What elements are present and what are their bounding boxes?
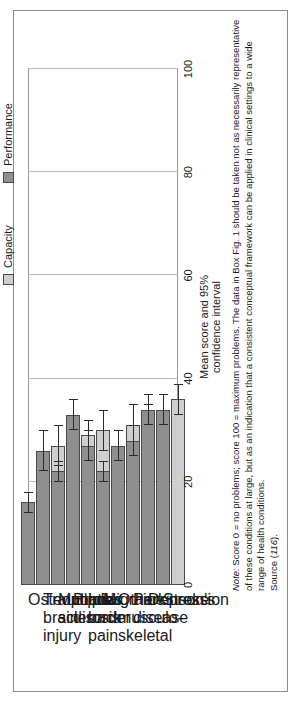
axis-tick-label-0: 0 xyxy=(182,572,194,598)
error-bar-cap-lower xyxy=(54,481,63,482)
bar-performance xyxy=(81,446,95,585)
error-bar-cap-lower xyxy=(69,429,78,430)
error-bar-cap-upper xyxy=(54,461,63,462)
category-label-line: skeletal xyxy=(118,627,133,645)
error-bar-cap-lower xyxy=(39,470,48,471)
error-bar-cap-upper xyxy=(69,399,78,400)
bar-performance xyxy=(156,410,170,585)
error-bar xyxy=(42,430,45,471)
bar-row xyxy=(141,69,155,585)
bar-row xyxy=(66,69,80,585)
value-axis-title: Mean score and 95% confidence interval xyxy=(198,227,222,427)
source-suffix: ). xyxy=(267,534,278,540)
category-label-line: musculo- xyxy=(118,609,133,627)
note-prefix: Note: xyxy=(230,568,241,591)
bar-row xyxy=(96,69,110,585)
error-bar-cap-lower xyxy=(129,455,138,456)
error-bar xyxy=(72,399,75,430)
error-bar-cap-upper xyxy=(144,394,153,395)
error-bar-cap-upper xyxy=(99,461,108,462)
category-label-wrap: Othermusculo-skeletal xyxy=(118,590,133,591)
axis-tick-label-80: 80 xyxy=(182,159,194,185)
axis-tick-label-20: 20 xyxy=(182,469,194,495)
error-bar-line xyxy=(163,394,164,425)
figure-note: Note: Score 0 = no problems; score 100 =… xyxy=(230,31,280,591)
error-bar-cap-upper xyxy=(129,425,138,426)
bar-row xyxy=(51,69,65,585)
legend-label-performance: Performance xyxy=(2,103,14,166)
category-label-wrap: Traumaticbraininjury xyxy=(43,590,58,591)
error-bar-cap-upper xyxy=(84,430,93,431)
axis-tick-label-60: 60 xyxy=(182,262,194,288)
axis-tick-label-100: 100 xyxy=(182,56,194,82)
figure-outer-border: OsteoporosisTraumaticbraininjuryMultiple… xyxy=(13,10,288,692)
chart-legend: CapacityPerformance xyxy=(2,69,32,585)
note-line-3: range of health conditions. xyxy=(255,31,268,591)
category-label-line: Bipolar xyxy=(73,591,88,609)
category-label-wrap: Parkinson'sdisease xyxy=(133,590,148,591)
error-bar-line xyxy=(178,384,179,415)
category-label-line: brain xyxy=(43,609,58,627)
category-label-wrap: Stroke xyxy=(163,590,178,591)
error-bar-cap-upper xyxy=(114,430,123,431)
category-label-wrap: Low backpain xyxy=(88,590,103,591)
error-bar-line xyxy=(73,399,74,430)
axis-title-line-1: Mean score and 95% xyxy=(198,227,210,427)
bar-row xyxy=(171,69,185,585)
bar-performance xyxy=(141,410,155,585)
note-line-1: Note: Score 0 = no problems; score 100 =… xyxy=(230,31,243,591)
category-label-line: injury xyxy=(43,627,58,645)
error-bar-line xyxy=(118,430,119,461)
category-label-line: Low back xyxy=(88,591,103,627)
error-bar xyxy=(87,430,90,461)
error-bar-line xyxy=(43,430,44,471)
error-bar xyxy=(57,461,60,482)
category-label-line: Traumatic xyxy=(43,591,58,609)
category-label-wrap: Osteoporosis xyxy=(28,590,43,591)
rotated-figure-stage: OsteoporosisTraumaticbraininjuryMultiple… xyxy=(22,21,280,681)
category-label-line: Depression xyxy=(148,591,163,609)
plot-area: OsteoporosisTraumaticbraininjuryMultiple… xyxy=(28,69,178,585)
error-bar xyxy=(117,430,120,461)
category-label-line: Osteoporosis xyxy=(28,591,43,609)
category-label-line: pain xyxy=(88,627,103,645)
legend-item-capacity: Capacity xyxy=(2,225,14,285)
category-label-line: disorder xyxy=(73,609,88,627)
axis-title-line-2: confidence interval xyxy=(210,227,222,427)
category-label-line: Other xyxy=(118,591,133,609)
legend-item-performance: Performance xyxy=(2,103,14,183)
legend-label-capacity: Capacity xyxy=(2,225,14,268)
bar-row xyxy=(126,69,140,585)
error-bar-cap-upper xyxy=(159,394,168,395)
bar-performance xyxy=(96,471,110,585)
error-bar-line xyxy=(88,430,89,461)
bar-row xyxy=(156,69,170,585)
note-source-line: Source (116). xyxy=(267,31,280,591)
category-label-wrap: Bipolardisorder xyxy=(73,590,88,591)
error-bar xyxy=(177,384,180,415)
figure-page: OsteoporosisTraumaticbraininjuryMultiple… xyxy=(0,0,299,702)
error-bar xyxy=(132,425,135,456)
error-bar-line xyxy=(148,394,149,425)
category-label-line: sclerosis xyxy=(58,609,73,627)
category-label-wrap: Multiplesclerosis xyxy=(58,590,73,591)
bar-performance xyxy=(126,441,140,585)
error-bar-cap-lower xyxy=(84,460,93,461)
error-bar-line xyxy=(103,461,104,482)
note-line-2: of these conditions at large, but as an … xyxy=(242,31,255,591)
source-prefix: Source ( xyxy=(267,555,278,591)
bar-row xyxy=(111,69,125,585)
error-bar xyxy=(147,394,150,425)
category-label-line: Migraine xyxy=(103,591,118,609)
error-bar xyxy=(102,461,105,482)
error-bar-line xyxy=(133,425,134,456)
bar-row xyxy=(81,69,95,585)
category-label-line: disease xyxy=(133,609,148,627)
error-bar-cap-lower xyxy=(99,481,108,482)
error-bar-line xyxy=(58,461,59,482)
error-bar-cap-lower xyxy=(144,424,153,425)
bar-performance xyxy=(111,446,125,585)
bar-chart-figure: OsteoporosisTraumaticbraininjuryMultiple… xyxy=(22,21,280,681)
category-label-wrap: Migraine xyxy=(103,590,118,591)
category-label-line: Stroke xyxy=(163,591,178,609)
